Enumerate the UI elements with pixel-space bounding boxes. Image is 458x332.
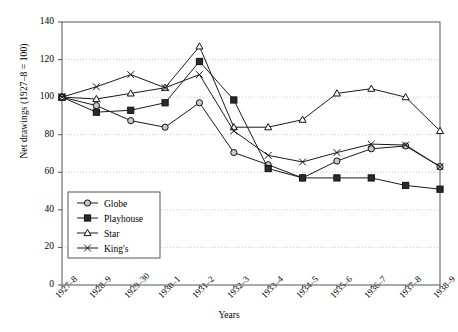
- series-globe: [59, 94, 443, 181]
- data-point: [128, 118, 134, 124]
- data-point: [334, 175, 340, 181]
- series-line: [62, 97, 440, 178]
- data-point: [437, 186, 443, 192]
- data-point: [368, 175, 374, 181]
- data-point: [196, 100, 202, 106]
- data-point: [368, 85, 375, 91]
- series-star: [59, 43, 444, 134]
- plot-canvas: GlobePlayhouseStarKing's: [0, 0, 458, 332]
- data-point: [93, 102, 99, 108]
- chart-figure: Net drawings (1927–8 = 100) Years 020406…: [0, 0, 458, 332]
- series-line: [62, 75, 440, 167]
- series-kings: [59, 71, 444, 170]
- data-point: [162, 124, 168, 130]
- data-point: [403, 182, 409, 188]
- data-point: [265, 165, 271, 171]
- legend-label: Star: [104, 229, 120, 239]
- data-point: [93, 109, 99, 115]
- data-point: [231, 97, 237, 103]
- data-point: [128, 107, 134, 113]
- data-point: [196, 43, 203, 49]
- data-point: [162, 100, 168, 106]
- legend-marker: [84, 200, 90, 206]
- legend-label: Globe: [104, 199, 127, 209]
- data-point: [299, 175, 305, 181]
- legend-label: Playhouse: [104, 214, 143, 224]
- data-point: [334, 158, 340, 164]
- data-point: [196, 58, 202, 64]
- series-line: [62, 61, 440, 189]
- legend: GlobePlayhouseStarKing's: [68, 192, 160, 258]
- data-point: [299, 116, 306, 122]
- series-line: [62, 46, 440, 131]
- legend-marker: [84, 215, 90, 221]
- legend-label: King's: [104, 244, 129, 254]
- data-point: [231, 149, 237, 155]
